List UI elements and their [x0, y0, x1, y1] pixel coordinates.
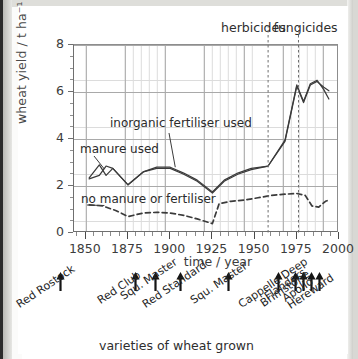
y-tick-label: 4 — [44, 130, 64, 145]
x-tick-label: 1850 — [63, 241, 107, 256]
x-tick-minor — [93, 232, 94, 236]
y-tick-minor — [70, 197, 73, 198]
x-tick-minor — [321, 232, 322, 236]
x-tick-label: 2000 — [316, 241, 358, 256]
y-tick-minor — [70, 68, 73, 69]
annotation-fungicides: fungicides — [273, 20, 337, 35]
x-tick-mark — [169, 232, 170, 239]
y-tick-label: 0 — [44, 224, 64, 239]
series-inline-label: manure used — [80, 142, 159, 156]
x-tick-mark — [254, 232, 255, 239]
label-leader-line — [169, 133, 175, 167]
x-tick-minor — [203, 232, 204, 236]
y-tick-label: 6 — [44, 83, 64, 98]
x-tick-minor — [186, 232, 187, 236]
y-axis-title: wheat yield / t ha⁻¹ — [14, 1, 29, 124]
y-tick-minor — [70, 220, 73, 221]
x-tick-minor — [287, 232, 288, 236]
label-leader-line — [94, 156, 104, 169]
y-tick-minor — [70, 150, 73, 151]
y-tick-mark — [68, 91, 73, 92]
x-tick-minor — [178, 232, 179, 236]
y-tick-mark — [68, 232, 73, 233]
series-line — [89, 81, 329, 193]
x-tick-mark — [338, 232, 339, 239]
x-tick-minor — [195, 232, 196, 236]
y-tick-mark — [68, 185, 73, 186]
x-tick-minor — [161, 232, 162, 236]
series-line — [89, 80, 329, 192]
series-inline-label: no manure or fertiliser — [81, 192, 216, 206]
x-tick-minor — [279, 232, 280, 236]
x-tick-minor — [152, 232, 153, 236]
x-tick-mark — [296, 232, 297, 239]
x-tick-minor — [313, 232, 314, 236]
x-tick-minor — [110, 232, 111, 236]
y-tick-minor — [70, 126, 73, 127]
y-tick-mark — [68, 138, 73, 139]
x-tick-minor — [102, 232, 103, 236]
x-tick-minor — [330, 232, 331, 236]
y-tick-minor — [70, 103, 73, 104]
x-tick-minor — [304, 232, 305, 236]
y-tick-minor — [70, 162, 73, 163]
x-tick-minor — [245, 232, 246, 236]
x-tick-minor — [119, 232, 120, 236]
x-tick-minor — [228, 232, 229, 236]
x-tick-minor — [270, 232, 271, 236]
y-tick-minor — [70, 173, 73, 174]
x-tick-mark — [211, 232, 212, 239]
y-tick-label: 2 — [44, 177, 64, 192]
x-tick-minor — [262, 232, 263, 236]
x-tick-minor — [135, 232, 136, 236]
x-tick-mark — [85, 232, 86, 239]
series-inline-label: inorganic fertiliser used — [110, 116, 252, 130]
scan-edge-gradient — [3, 0, 12, 359]
y-tick-minor — [70, 79, 73, 80]
y-tick-minor — [70, 56, 73, 57]
y-tick-minor — [70, 209, 73, 210]
y-tick-label: 8 — [44, 36, 64, 51]
varieties-axis-title: varieties of wheat grown — [0, 338, 353, 353]
y-tick-mark — [68, 44, 73, 45]
x-tick-minor — [237, 232, 238, 236]
y-tick-minor — [70, 115, 73, 116]
x-tick-minor — [76, 232, 77, 236]
x-tick-mark — [127, 232, 128, 239]
x-tick-minor — [220, 232, 221, 236]
x-tick-minor — [144, 232, 145, 236]
